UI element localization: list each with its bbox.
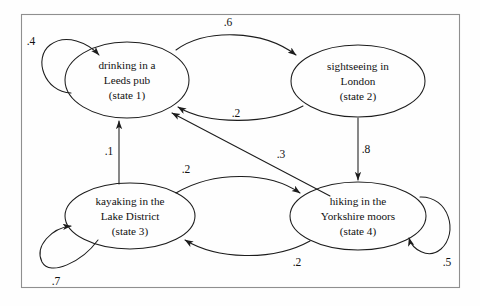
prob-label-state4-state4: .5 bbox=[443, 256, 452, 268]
state-1-label-line2: Leeds pub bbox=[104, 74, 151, 86]
prob-label-state2-state1: .2 bbox=[232, 107, 241, 119]
node-state-4: hiking in the Yorkshire moors (state 4) bbox=[290, 182, 426, 250]
state-4-label-line1: hiking in the bbox=[330, 195, 387, 207]
edge-state4-to-state3 bbox=[185, 240, 310, 256]
node-state-3: kayaking in the Lake District (state 3) bbox=[65, 183, 195, 249]
state-4-label-line2: Yorkshire moors bbox=[321, 210, 395, 222]
prob-label-state1-state2: .6 bbox=[224, 16, 233, 28]
prob-label-state2-state4: .8 bbox=[362, 143, 371, 155]
state-transition-diagram: drinking in a Leeds pub (state 1) sights… bbox=[0, 0, 480, 306]
state-4-label-line3: (state 4) bbox=[340, 225, 377, 238]
state-1-label-line3: (state 1) bbox=[109, 89, 146, 102]
node-state-1: drinking in a Leeds pub (state 1) bbox=[65, 42, 189, 118]
state-1-label-line1: drinking in a bbox=[98, 59, 155, 71]
state-2-label-line1: sightseeing in bbox=[327, 60, 389, 72]
edge-state1-to-state2 bbox=[176, 35, 296, 55]
edge-state3-to-state4 bbox=[176, 176, 300, 193]
edge-state3-to-state3 bbox=[40, 226, 98, 268]
state-2-label-line2: London bbox=[341, 75, 376, 87]
node-state-2: sightseeing in London (state 2) bbox=[291, 45, 425, 117]
state-3-label-line1: kayaking in the bbox=[96, 195, 165, 207]
prob-label-state3-state3: .7 bbox=[52, 275, 61, 287]
prob-label-state1-state1: .4 bbox=[27, 35, 36, 47]
edge-state1-to-state1 bbox=[42, 40, 99, 93]
prob-label-state4-state1: .3 bbox=[277, 148, 286, 160]
diagram-canvas: drinking in a Leeds pub (state 1) sights… bbox=[0, 0, 480, 306]
diagram-frame bbox=[22, 15, 460, 288]
edge-state4-to-state4 bbox=[409, 197, 450, 254]
prob-label-state3-state1: .1 bbox=[105, 145, 114, 157]
state-3-label-line2: Lake District bbox=[101, 210, 161, 222]
state-3-label-line3: (state 3) bbox=[112, 225, 149, 238]
state-2-label-line3: (state 2) bbox=[340, 90, 377, 103]
edge-state2-to-state1 bbox=[178, 106, 303, 120]
prob-label-state4-state3: .2 bbox=[293, 256, 302, 268]
prob-label-state3-state4: .2 bbox=[182, 163, 191, 175]
